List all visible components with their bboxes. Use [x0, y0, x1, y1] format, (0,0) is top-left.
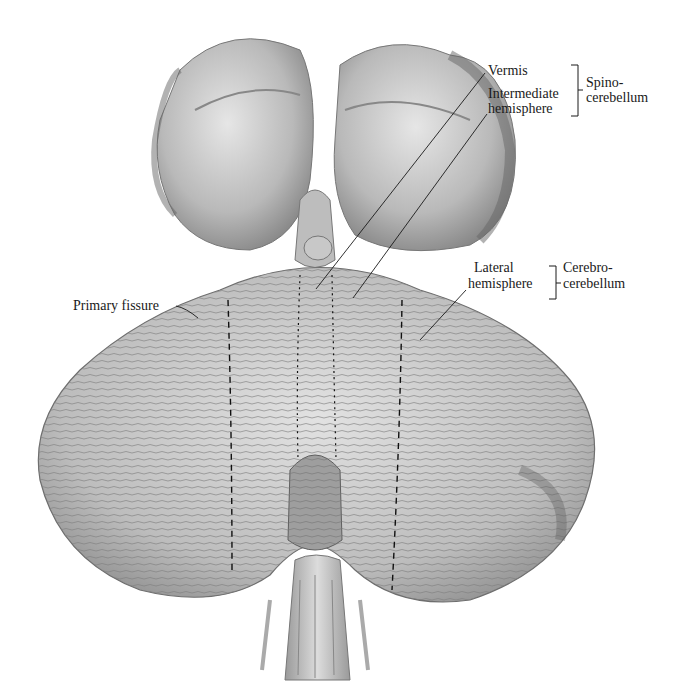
brainstem [262, 555, 368, 680]
label-cerebro-1: Cerebro- [563, 260, 613, 276]
left-upper-lobe [154, 39, 313, 250]
label-primary-fissure: Primary fissure [73, 298, 159, 314]
cerebellum-illustration [0, 0, 680, 700]
label-intermediate-2: hemisphere [488, 101, 553, 117]
cerebellum-body [38, 268, 594, 603]
label-lateral-1: Lateral [474, 260, 514, 276]
label-lateral-2: hemisphere [468, 276, 533, 292]
label-intermediate-1: Intermediate [488, 86, 559, 102]
spino-bracket [571, 65, 583, 116]
label-spino-2: cerebellum [586, 90, 648, 106]
cerebro-bracket [549, 266, 561, 299]
label-spino-1: Spino- [586, 75, 623, 91]
label-cerebro-2: cerebellum [563, 276, 625, 292]
midline-structures [295, 190, 335, 268]
label-vermis: Vermis [488, 63, 528, 79]
